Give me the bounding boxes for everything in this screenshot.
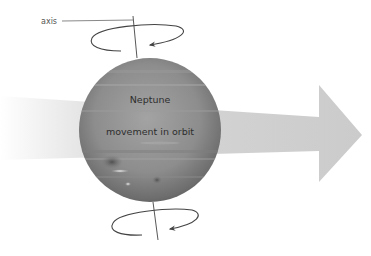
axis-line-bottom xyxy=(153,202,158,240)
rotation-arrow-bottom-icon xyxy=(112,209,198,235)
axis-label: axis xyxy=(41,17,57,26)
neptune-diagram: axis Neptune movement in orbit xyxy=(0,0,371,256)
planet-name-label: Neptune xyxy=(130,94,171,105)
axis-line-top xyxy=(133,16,137,58)
bright-cloud-spot xyxy=(125,182,131,186)
bright-cloud-streak xyxy=(111,169,129,173)
great-dark-spot xyxy=(101,155,123,169)
axis-leader-line xyxy=(62,20,133,21)
small-dark-spot xyxy=(152,176,162,184)
orbit-movement-label: movement in orbit xyxy=(106,126,194,137)
rotation-arrow-top-icon xyxy=(91,25,183,51)
